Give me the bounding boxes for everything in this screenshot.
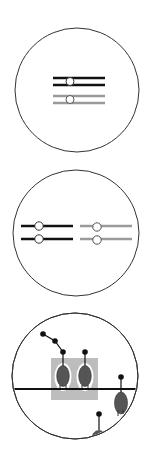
gray-knob-bottom: [93, 236, 101, 244]
panel-2-circle: [13, 170, 139, 296]
panel-1-circle: [15, 28, 139, 152]
black-knob-bottom: [35, 235, 43, 243]
panel-1: [15, 28, 139, 152]
panel-2: [13, 170, 139, 296]
panel-3: [10, 313, 140, 450]
diagram-canvas: [0, 0, 147, 455]
black-knob: [66, 78, 74, 86]
gray-knob-top: [93, 223, 101, 231]
black-knob-top: [35, 222, 43, 230]
gray-knob: [66, 96, 74, 104]
